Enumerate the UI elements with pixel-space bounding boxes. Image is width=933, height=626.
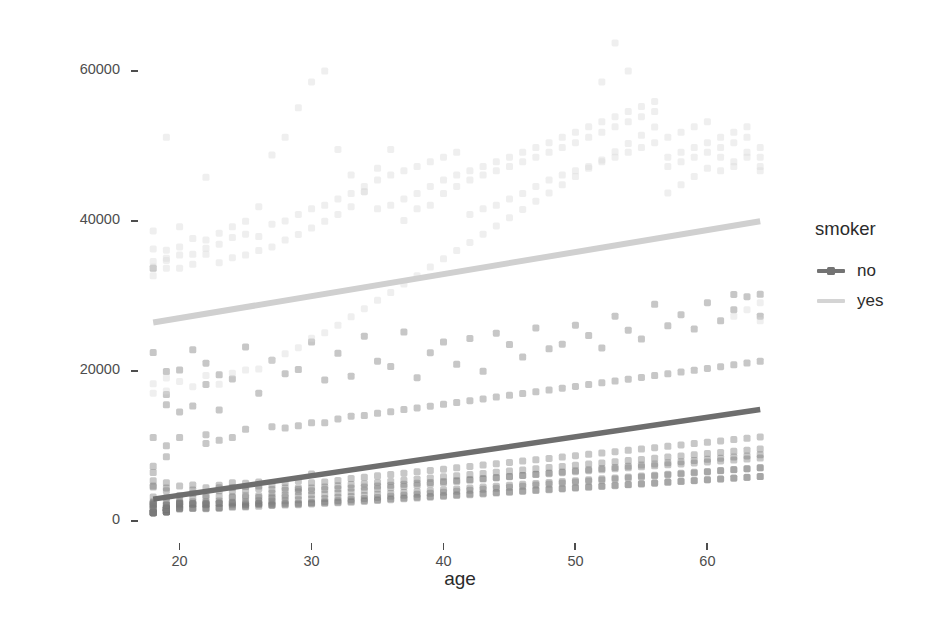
series-points-yes [150,39,764,396]
legend-label-yes: yes [857,291,883,311]
x-tick-label: 40 [435,553,451,569]
legend-label-no: no [857,261,876,281]
series-points-no [150,265,764,517]
y-tick-mark [131,220,138,222]
y-tick-mark [131,520,138,522]
y-tick-mark [131,370,138,372]
y-tick-label: 0 [40,511,120,527]
y-tick-mark [131,70,138,72]
legend-key-no [815,256,846,286]
x-tick-mark [311,543,313,550]
x-tick-mark [706,543,708,550]
x-tick-mark [443,543,445,550]
x-tick-mark [179,543,181,550]
x-tick-label: 50 [567,553,583,569]
x-tick-label: 20 [172,553,188,569]
y-tick-label: 20000 [40,361,120,377]
x-tick-mark [574,543,576,550]
plot-panel [140,30,780,540]
chart-page: expenses age 0200004000060000 2030405060… [0,0,933,626]
x-axis-title: age [155,568,765,590]
x-tick-label: 30 [303,553,319,569]
y-tick-label: 40000 [40,211,120,227]
scatter-plot-svg [140,30,780,540]
legend-title: smoker [815,218,933,240]
legend: smoker noyes [815,218,933,316]
x-tick-label: 60 [699,553,715,569]
y-tick-label: 60000 [40,61,120,77]
legend-entry-yes[interactable]: yes [815,286,933,316]
legend-entry-no[interactable]: no [815,256,933,286]
legend-key-yes [815,286,846,316]
legend-entries: noyes [815,256,933,316]
y-axis-title: expenses [0,0,40,626]
